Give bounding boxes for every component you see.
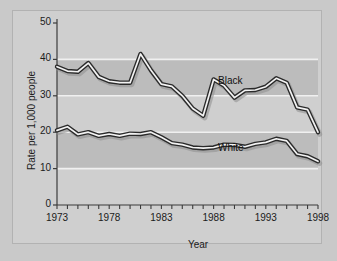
y-tick-label-20: 20 [23, 125, 51, 136]
background-bands [57, 23, 318, 205]
x-tick-label-1988: 1988 [198, 212, 230, 223]
series-label-white: White [218, 142, 244, 153]
x-tick-label-1973: 1973 [41, 212, 73, 223]
y-tick-label-40: 40 [23, 52, 51, 63]
chart-figure: Rate per 1,000 people Year 01020304050 1… [0, 0, 337, 261]
y-tick-label-0: 0 [23, 198, 51, 209]
x-tick-label-1998: 1998 [302, 212, 334, 223]
y-tick-label-50: 50 [23, 16, 51, 27]
x-tick-label-1978: 1978 [93, 212, 125, 223]
y-tick-label-30: 30 [23, 89, 51, 100]
y-tick-label-10: 10 [23, 162, 51, 173]
x-tick-label-1983: 1983 [145, 212, 177, 223]
x-tick-label-1993: 1993 [250, 212, 282, 223]
line-chart-plot [13, 11, 323, 245]
series-label-black: Black [218, 75, 242, 86]
x-axis-title: Year [68, 239, 328, 250]
chart-frame: Rate per 1,000 people Year 01020304050 1… [12, 10, 322, 244]
